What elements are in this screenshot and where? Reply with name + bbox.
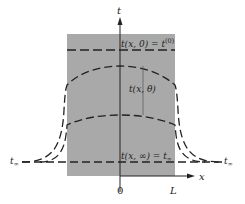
slab-cooling-diagram: t x 0 L t(x, 0) = t(0) t(x, θ) t(x, ∞) =… [0, 0, 245, 204]
t-axis-arrow-icon [118, 17, 123, 25]
origin-label: 0 [117, 185, 123, 196]
final-condition-label: t(x, ∞) = t∞ [121, 151, 172, 162]
t-axis-label: t [117, 5, 122, 16]
x-axis-label: x [199, 171, 205, 182]
slab-end-label: L [169, 185, 177, 196]
ambient-right-label: t∞ [224, 156, 233, 167]
x-axis-arrow-icon [187, 174, 195, 179]
intermediate-label: t(x, θ) [129, 84, 156, 94]
ambient-left-label: t∞ [10, 156, 19, 167]
